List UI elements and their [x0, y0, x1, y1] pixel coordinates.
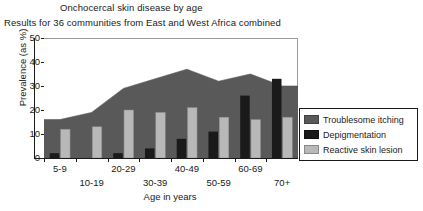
chart-legend: Troublesome itching Depigmentation React… [299, 108, 418, 161]
legend-swatch-troublesome-itching [304, 115, 319, 124]
x-axis-tick-label: 20-29 [101, 163, 145, 174]
x-axis-tick-label: 50-59 [197, 177, 241, 188]
chart-title: Onchocercal skin disease by age [60, 2, 203, 13]
x-axis-label: Age in years [100, 191, 240, 202]
x-axis-line [34, 158, 298, 159]
x-axis-tick-label: 10-19 [70, 177, 114, 188]
y-axis-tick-mark [41, 86, 44, 87]
y-axis-label: Prevalence (as %) [17, 8, 28, 128]
x-axis-tick-label: 40-49 [165, 163, 209, 174]
legend-item: Reactive skin lesion [304, 142, 414, 157]
y-axis-tick-mark [41, 62, 44, 63]
legend-item: Depigmentation [304, 127, 414, 142]
y-axis-tick-label: 10 [14, 129, 40, 139]
legend-label: Depigmentation [323, 130, 386, 140]
x-axis-tick-label: 70+ [260, 177, 304, 188]
x-axis-tick-mark [139, 158, 140, 162]
legend-label: Troublesome itching [323, 115, 404, 125]
y-axis-line [34, 38, 35, 158]
x-axis-tick-label: 5-9 [38, 163, 82, 174]
x-axis-tick-mark [266, 158, 267, 162]
legend-item: Troublesome itching [304, 112, 414, 127]
x-axis-tick-mark [203, 158, 204, 162]
plot-area [44, 38, 298, 158]
x-axis-tick-mark [76, 158, 77, 162]
y-axis-tick-mark [41, 38, 44, 39]
x-axis-tick-mark [171, 158, 172, 162]
x-axis-tick-label: 30-39 [133, 177, 177, 188]
legend-label: Reactive skin lesion [323, 145, 403, 155]
y-axis-tick-mark [41, 134, 44, 135]
legend-swatch-reactive-skin-lesion [304, 145, 319, 154]
chart-subtitle: Results for 36 communities from East and… [4, 17, 281, 28]
x-axis-tick-label: 60-69 [228, 163, 272, 174]
chart-figure: Onchocercal skin disease by age Results … [0, 0, 423, 211]
legend-swatch-depigmentation [304, 130, 319, 139]
x-axis-tick-mark [108, 158, 109, 162]
x-axis-tick-mark [235, 158, 236, 162]
y-axis-tick-mark [41, 110, 44, 111]
x-axis-tick-mark [44, 158, 45, 162]
plot-svg [44, 38, 298, 158]
